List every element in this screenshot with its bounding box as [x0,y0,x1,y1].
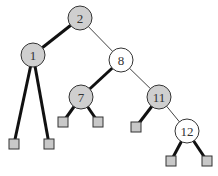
node-label: 8 [118,53,125,68]
nil-leaf [44,139,54,149]
tree-nodes: 21871112 [21,6,199,143]
node-label: 11 [153,90,166,105]
tree-node-2: 2 [68,6,92,30]
nil-leaf [58,117,68,127]
tree-node-7: 7 [69,85,93,109]
tree-node-11: 11 [147,85,171,109]
tree-node-12: 12 [175,119,199,143]
nil-leaf [93,117,103,127]
thick-edge [33,55,49,144]
node-label: 1 [30,48,37,63]
tree-node-8: 8 [109,48,133,72]
node-label: 7 [78,90,85,105]
nil-leaf [202,156,212,166]
node-label: 2 [77,11,84,26]
node-label: 12 [181,124,194,139]
tree-node-1: 1 [21,43,45,67]
nil-leaf [166,156,176,166]
nil-leaf [9,139,19,149]
tree-diagram: 21871112 [0,0,218,176]
nil-leaf [131,122,141,132]
thick-edge [14,55,33,144]
